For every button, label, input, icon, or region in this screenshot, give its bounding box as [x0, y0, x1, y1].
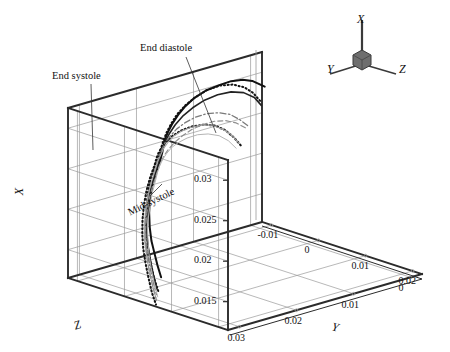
x-axis-title: X — [12, 188, 27, 195]
curve-intermediate-grey-a — [144, 125, 238, 298]
annotation-end-systole: End systole — [52, 70, 101, 81]
axis-triad-icon — [330, 20, 396, 74]
x-tick-1: 0.025 — [194, 214, 217, 225]
x-tick-2: 0.02 — [194, 254, 212, 265]
annotation-end-diastole: End diastole — [140, 42, 192, 53]
x-tick-3: 0.015 — [194, 295, 217, 306]
triad-z-label: Z — [399, 62, 406, 77]
z-tick-0: -0.01 — [257, 229, 278, 240]
y-tick-3: 0 — [399, 282, 404, 293]
z-tick-1: 0 — [304, 244, 309, 255]
x-tick-0: 0.03 — [194, 173, 212, 184]
y-tick-1: 0.02 — [284, 315, 302, 326]
plot-canvas — [0, 0, 450, 352]
triad-y-label: Y — [327, 62, 334, 77]
curve-intermediate-dashdot — [146, 113, 248, 295]
y-tick-2: 0.01 — [342, 299, 360, 310]
curve-mid-systole-dotted — [142, 125, 240, 305]
tick-marks — [223, 180, 414, 328]
y-tick-0: 0.03 — [227, 332, 245, 343]
z-tick-2: 0.01 — [352, 260, 370, 271]
triad-x-label: X — [357, 12, 364, 27]
grid-lines — [68, 55, 413, 327]
figure-3d-plot: X Z Y End systole End diastole Mid-systo… — [0, 0, 450, 352]
